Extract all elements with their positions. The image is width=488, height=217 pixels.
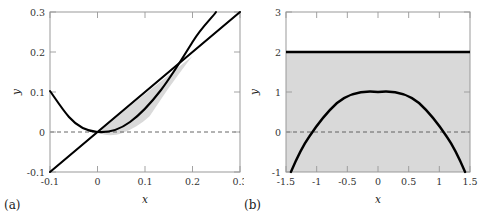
panel-b-xtick-label-6: 1.5	[462, 176, 477, 187]
panel-a-xaxis-title: x	[142, 193, 148, 205]
panel-a-shaded-region	[98, 56, 193, 135]
panel-a-plot: 0.3 0.2 0.1 0 -0.1 -0.1 0 0.1 0.2 0.3 x …	[0, 0, 244, 217]
panel-a-ytick-label-0: 0.3	[30, 7, 45, 18]
panel-b-shaded-region	[286, 52, 470, 172]
panel-b-xtick-label-1: -1	[312, 176, 321, 187]
panel-b-ytick-label-3: 0	[275, 127, 281, 138]
panel-b-xtick-label-3: 0	[375, 176, 381, 187]
panel-a-line-curve	[50, 12, 240, 172]
panel-a-xtick-label-3: 0.2	[185, 176, 200, 187]
panel-b-ytick-label-0: 3	[275, 7, 281, 18]
panel-b-plot: 3 2 1 0 -1 -1.5 -1 -0.5 0 0.5 1 1.5 x y …	[244, 0, 488, 217]
panel-b-ytick-label-1: 2	[275, 47, 281, 58]
panel-a-label: (a)	[4, 198, 21, 212]
panel-a-ytick-label-2: 0.1	[30, 87, 45, 98]
panel-b-label: (b)	[244, 198, 261, 212]
panel-a: 0.3 0.2 0.1 0 -0.1 -0.1 0 0.1 0.2 0.3 x …	[0, 0, 244, 217]
panel-b-xaxis-title: x	[375, 193, 381, 205]
panel-b: 3 2 1 0 -1 -1.5 -1 -0.5 0 0.5 1 1.5 x y …	[244, 0, 488, 217]
panel-b-xtick-label-4: 0.5	[401, 176, 416, 187]
panel-b-xtick-label-0: -1.5	[277, 176, 295, 187]
panel-a-xtick-label-0: -0.1	[41, 176, 59, 187]
figure-root: 0.3 0.2 0.1 0 -0.1 -0.1 0 0.1 0.2 0.3 x …	[0, 0, 488, 217]
panel-b-yaxis-title: y	[248, 88, 260, 96]
panel-b-ytick-label-2: 1	[275, 87, 281, 98]
panel-a-ytick-label-1: 0.2	[30, 47, 45, 58]
panel-b-xtick-label-5: 1	[436, 176, 442, 187]
panel-a-xtick-label-2: 0.1	[137, 176, 152, 187]
panel-a-xtick-label-4: 0.3	[232, 176, 244, 187]
panel-b-xtick-label-2: -0.5	[338, 176, 356, 187]
panel-a-yaxis-title: y	[10, 88, 22, 96]
panel-a-ytick-label-3: 0	[39, 127, 45, 138]
panel-a-xtick-label-1: 0	[94, 176, 100, 187]
